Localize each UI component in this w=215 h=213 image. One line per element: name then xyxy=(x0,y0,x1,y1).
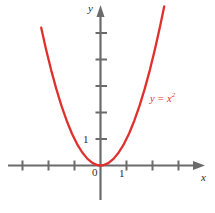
x-axis xyxy=(8,161,205,170)
y-axis-label: y xyxy=(88,3,93,14)
origin-tick-label: 0 xyxy=(92,167,98,178)
y-axis-arrowhead xyxy=(97,5,105,17)
curve-equation-label: y = x2 xyxy=(150,92,175,104)
curve-equation-exponent: 2 xyxy=(172,91,176,99)
y-tick-label-1: 1 xyxy=(83,134,89,145)
plot-canvas xyxy=(0,0,215,213)
x-axis-label: x xyxy=(201,172,206,183)
x-axis-arrowhead xyxy=(193,161,205,170)
parabola-graph-figure: y x 0 1 1 y = x2 xyxy=(0,0,215,213)
curve-equation-base: y = x xyxy=(150,93,172,104)
x-tick-label-1: 1 xyxy=(119,168,125,179)
